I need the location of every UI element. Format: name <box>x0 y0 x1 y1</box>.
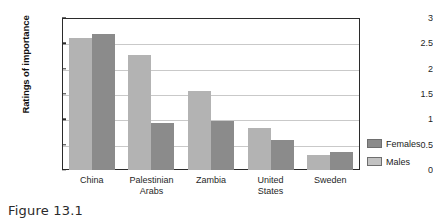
figure-container: Ratings of importance 00.511.522.53 Chin… <box>0 0 433 224</box>
legend-item-males: Males <box>367 154 421 169</box>
y-tick-label: 2.5 <box>381 38 433 48</box>
legend-label-females: Females <box>386 139 421 149</box>
y-axis-title: Ratings of importance <box>20 0 31 145</box>
legend-swatch-females <box>367 139 382 148</box>
legend-label-males: Males <box>386 157 410 167</box>
legend-swatch-males <box>367 157 382 166</box>
y-tick-label: 1.5 <box>381 89 433 99</box>
bar-china-males <box>69 38 92 170</box>
x-label-united-states: UnitedStates <box>241 175 301 196</box>
bars-layer <box>62 18 360 170</box>
y-tick-label: 1 <box>381 114 433 124</box>
y-tick-label: 2 <box>381 64 433 74</box>
chart-legend: FemalesMales <box>367 136 421 172</box>
x-label-palestinian-arabs: PalestinianArabs <box>122 175 182 196</box>
bar-china-females <box>92 34 115 170</box>
figure-caption: Figure 13.1 <box>8 203 83 218</box>
legend-item-females: Females <box>367 136 421 151</box>
bar-sweden-males <box>307 155 330 170</box>
bar-palestinian-arabs-males <box>128 55 151 170</box>
bar-zambia-males <box>188 91 211 170</box>
bar-palestinian-arabs-females <box>151 123 174 170</box>
bar-united-states-females <box>271 140 294 170</box>
bar-united-states-males <box>248 128 271 170</box>
x-label-china: China <box>62 175 122 186</box>
bar-zambia-females <box>211 121 234 170</box>
y-tick-label: 3 <box>381 13 433 23</box>
bar-sweden-females <box>330 152 353 170</box>
x-label-sweden: Sweden <box>300 175 360 186</box>
x-label-zambia: Zambia <box>181 175 241 186</box>
